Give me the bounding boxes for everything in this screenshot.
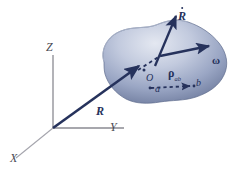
y-axis-label: Y [110, 121, 117, 133]
kinematics-figure: Z Y X R R ω ρab O a b [0, 0, 235, 171]
angular-velocity-label: ω [212, 55, 220, 66]
point-b-label: b [196, 78, 201, 88]
z-axis-label: Z [46, 41, 53, 53]
x-axis [16, 128, 53, 158]
x-axis-label: X [10, 152, 17, 164]
rigid-body-shape [103, 20, 227, 103]
relative-position-label: ρab [168, 64, 181, 83]
point-a-marker [149, 87, 152, 90]
point-O-label: O [146, 73, 153, 83]
position-vector-label: R [96, 105, 104, 117]
velocity-vector-symbol: R [178, 10, 186, 22]
velocity-vector-label: R [178, 10, 186, 22]
point-a-label: a [155, 84, 160, 94]
point-b-marker [193, 85, 196, 88]
rho-subscript: ab [174, 75, 181, 82]
